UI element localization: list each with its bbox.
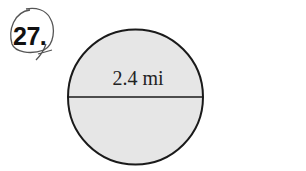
diameter-label: 2.4 mi [106, 67, 170, 90]
problem-number: 27. [13, 22, 46, 51]
